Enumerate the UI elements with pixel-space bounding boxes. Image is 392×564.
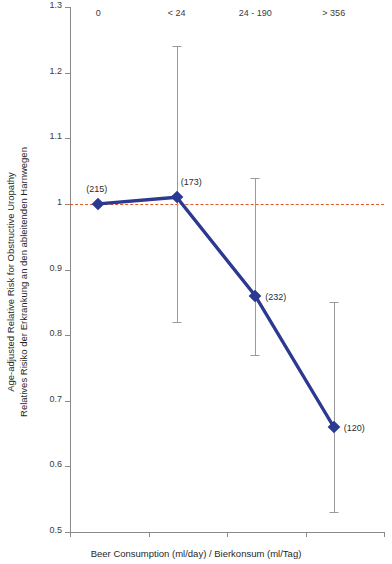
- series-line: [0, 0, 392, 564]
- data-point-label: (232): [265, 292, 286, 302]
- y-axis-title: Age-adjusted Relative Risk for Obstructi…: [0, 0, 34, 564]
- x-axis-title: Beer Consumption (ml/day) / Bierkonsum (…: [0, 548, 392, 559]
- data-point-label: (173): [181, 177, 202, 187]
- data-point-label: (120): [344, 423, 365, 433]
- y-axis-title-line-2: Relatives Risiko der Erkrankung an den a…: [17, 147, 30, 417]
- data-point-label: (215): [86, 184, 107, 194]
- y-axis-title-line-1: Age-adjusted Relative Risk for Obstructi…: [4, 147, 17, 417]
- series-polyline: [98, 197, 334, 427]
- chart-container: 0.50.60.70.80.911.11.21.3 0< 2424 - 190>…: [0, 0, 392, 564]
